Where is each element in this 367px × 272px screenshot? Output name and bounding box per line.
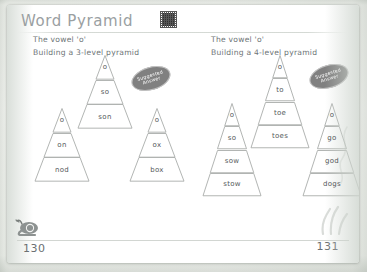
pyramid-word: son bbox=[98, 113, 111, 121]
pyramid-word: to bbox=[276, 86, 284, 94]
pyramid-word: god bbox=[325, 157, 339, 165]
pyramid-word: o bbox=[103, 63, 108, 71]
pyramid-word: o bbox=[278, 63, 283, 71]
section-left-lead-1: The vowel 'o' bbox=[33, 35, 190, 44]
paper-sheet: Word Pyramid The vowel 'o' Building a 3-… bbox=[7, 5, 359, 263]
pyramid-word: toe bbox=[274, 109, 286, 117]
suggested-answer-stamp-left: Suggested Answer bbox=[129, 62, 174, 96]
page-number-right: 131 bbox=[317, 240, 340, 253]
pyramid-level: nod bbox=[35, 157, 89, 182]
pyramid-word: nod bbox=[55, 166, 69, 174]
pyramid-level: o bbox=[303, 103, 359, 126]
pyramid-word: box bbox=[150, 166, 164, 174]
pyramid-word: on bbox=[57, 141, 66, 149]
pyramid-level: so bbox=[78, 80, 132, 105]
pyramid-word: so bbox=[101, 88, 110, 96]
pyramid-word: o bbox=[155, 116, 160, 124]
suggested-answer-stamp-right: Suggested Answer bbox=[307, 60, 352, 94]
word-pyramid: ososowstow bbox=[203, 103, 261, 196]
grass-icon bbox=[317, 201, 349, 235]
page-number-left: 130 bbox=[23, 242, 46, 255]
pyramid-word: ox bbox=[153, 141, 162, 149]
pyramid-word: o bbox=[230, 111, 235, 119]
section-right-lead-1: The vowel 'o' bbox=[211, 35, 359, 44]
pyramid-word: so bbox=[228, 134, 237, 142]
pyramid-word: go bbox=[327, 134, 336, 142]
pyramid-level: ox bbox=[130, 133, 184, 158]
pyramid-level: sow bbox=[203, 150, 261, 173]
worksheet-page: Word Pyramid The vowel 'o' Building a 3-… bbox=[0, 0, 367, 272]
qr-code-icon[interactable] bbox=[160, 11, 177, 28]
pyramid-word: sow bbox=[225, 157, 240, 165]
pyramid-level: o bbox=[130, 108, 184, 133]
pyramid-level: on bbox=[35, 133, 89, 158]
pyramid-word: o bbox=[60, 116, 65, 124]
pyramid-level: to bbox=[251, 78, 309, 101]
pyramid-level: o bbox=[35, 108, 89, 133]
footer-divider bbox=[17, 240, 349, 241]
word-pyramid: oonnod bbox=[35, 108, 89, 182]
page-title: Word Pyramid bbox=[21, 12, 133, 30]
pyramid-level: o bbox=[78, 55, 132, 80]
pyramid-word: toes bbox=[272, 132, 288, 140]
pyramid-word: dogs bbox=[323, 180, 341, 188]
pyramid-word: o bbox=[330, 111, 335, 119]
pyramid-level: o bbox=[203, 103, 261, 126]
pyramid-level: box bbox=[130, 157, 184, 182]
word-pyramid: ooxbox bbox=[130, 108, 184, 182]
title-divider bbox=[17, 32, 347, 33]
pyramid-word: stow bbox=[223, 180, 241, 188]
snail-icon bbox=[15, 217, 45, 237]
pyramid-level: o bbox=[251, 55, 309, 78]
pyramid-level: stow bbox=[203, 173, 261, 196]
pyramid-level: so bbox=[203, 126, 261, 149]
